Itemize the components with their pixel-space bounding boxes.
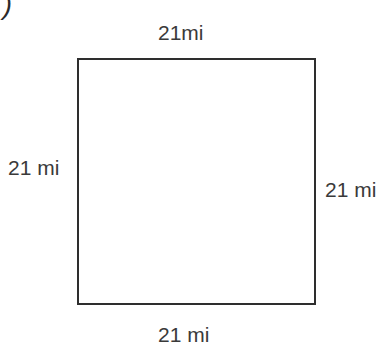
- geometry-figure: ) 21mi 21 mi 21 mi 21 mi: [0, 0, 388, 350]
- side-label-top: 21mi: [158, 20, 204, 46]
- square-shape: [77, 58, 316, 305]
- item-marker: ): [0, 0, 30, 22]
- side-label-right: 21 mi: [325, 177, 376, 203]
- side-label-bottom: 21 mi: [158, 322, 209, 348]
- side-label-left: 21 mi: [8, 155, 59, 181]
